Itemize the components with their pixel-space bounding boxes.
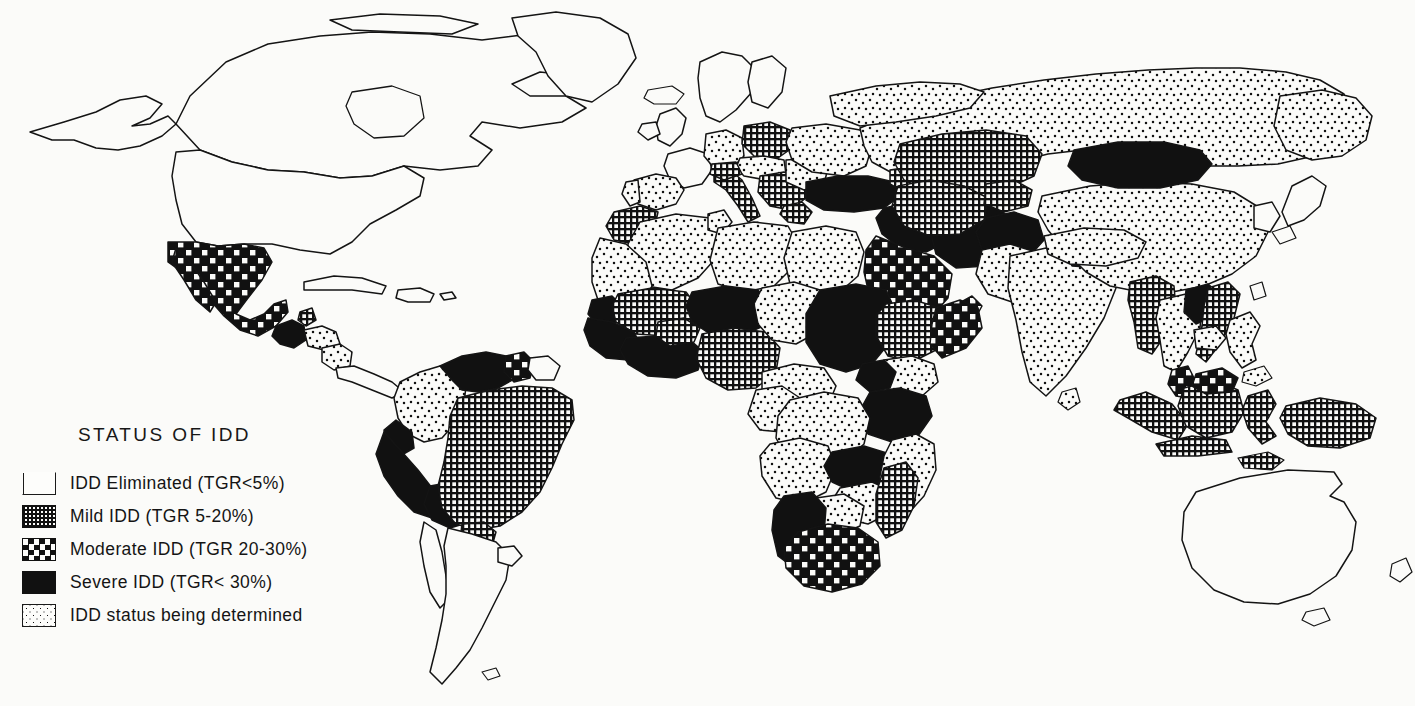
checkerboard-swatch-icon: [22, 538, 56, 561]
legend-label-eliminated: IDD Eliminated (TGR<5%): [70, 473, 285, 494]
region-turkey: [806, 176, 900, 212]
idd-world-map-figure: STATUS OF IDD IDD Eliminated (TGR<5%) Mi…: [0, 0, 1415, 706]
open-box-swatch-icon: [22, 472, 56, 495]
solid-black-swatch-icon: [22, 571, 56, 594]
legend-item-mild[interactable]: Mild IDD (TGR 5-20%): [22, 501, 352, 532]
legend-label-moderate: Moderate IDD (TGR 20-30%): [70, 539, 308, 560]
legend-item-severe[interactable]: Severe IDD (TGR< 30%): [22, 567, 352, 598]
legend-label-mild: Mild IDD (TGR 5-20%): [70, 506, 254, 527]
legend-item-moderate[interactable]: Moderate IDD (TGR 20-30%): [22, 534, 352, 565]
legend-item-determined[interactable]: IDD status being determined: [22, 600, 352, 631]
legend-title: STATUS OF IDD: [78, 424, 352, 446]
legend-label-severe: Severe IDD (TGR< 30%): [70, 572, 272, 593]
stipple-swatch-icon: [22, 604, 56, 627]
legend-item-eliminated[interactable]: IDD Eliminated (TGR<5%): [22, 468, 352, 499]
legend: STATUS OF IDD IDD Eliminated (TGR<5%) Mi…: [22, 424, 352, 633]
crosshatch-swatch-icon: [22, 505, 56, 528]
region-puerto-rico: [440, 292, 456, 300]
region-mongolia: [1068, 142, 1212, 188]
legend-label-determined: IDD status being determined: [70, 605, 303, 626]
